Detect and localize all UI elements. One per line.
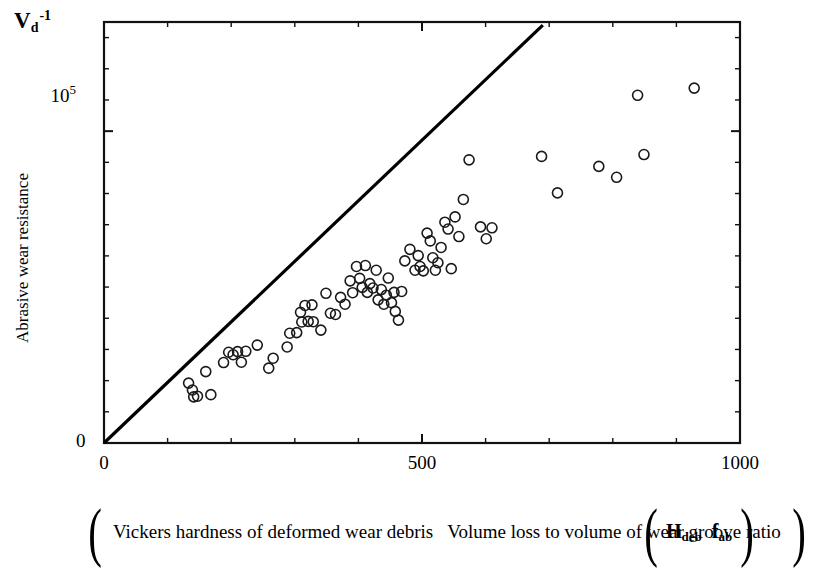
data-point [393,315,403,325]
fraction-numerator: Vickers hardness of deformed wear debris [108,520,438,543]
data-point [450,212,460,222]
symbol-numerator: Hdeb [663,520,705,542]
close-paren-right: ) [740,499,754,565]
data-point [292,328,302,338]
data-point [454,232,464,242]
data-point [371,265,381,275]
open-paren-left: ( [88,499,102,565]
data-point [487,223,497,233]
x-axis-symbol-expression: ( Hdeb fab ) [640,495,758,569]
data-point [219,358,229,368]
data-point [345,276,355,286]
data-point [383,273,393,283]
data-point [321,288,331,298]
data-point-series [184,83,700,402]
data-point [446,264,456,274]
data-point [282,342,292,352]
data-point [268,353,278,363]
data-point [552,188,562,198]
data-point [476,222,486,232]
data-point [633,90,643,100]
data-point [612,172,622,182]
open-paren-right: ( [644,499,658,565]
trend-line-path [104,25,543,443]
symbol-fraction: Hdeb fab [663,520,735,545]
symbol-numerator-base: H [666,520,682,542]
close-paren-left: ) [792,499,806,565]
data-point [413,251,423,261]
data-point [252,340,262,350]
data-point [458,194,468,204]
data-point [481,234,491,244]
symbol-denominator: fab [709,520,735,542]
scatter-plot-canvas [0,0,813,577]
data-point [206,390,216,400]
symbol-denominator-sub: ab [718,529,732,544]
data-point [307,300,317,310]
data-point [236,357,246,367]
data-point [400,256,410,266]
trend-line [104,25,543,443]
data-point [594,161,604,171]
data-point [436,242,446,252]
data-point [264,363,274,373]
data-point [348,288,358,298]
data-point [537,151,547,161]
data-point [639,150,649,160]
data-point [201,367,211,377]
data-point [464,155,474,165]
data-point [689,83,699,93]
symbol-numerator-sub: deb [682,529,702,544]
data-point [316,325,326,335]
